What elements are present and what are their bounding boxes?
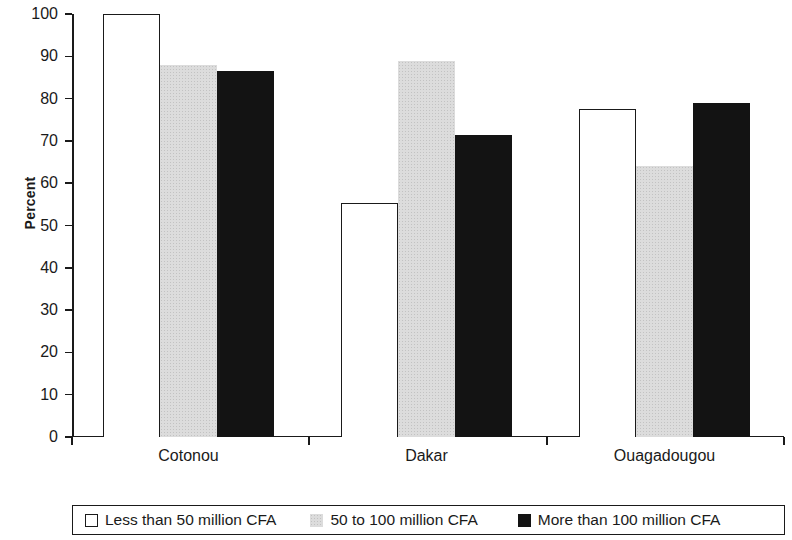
y-tick: 50 bbox=[65, 225, 72, 227]
x-axis-category-label: Dakar bbox=[327, 447, 527, 465]
y-tick-label: 10 bbox=[40, 387, 58, 403]
legend-label: 50 to 100 million CFA bbox=[330, 511, 477, 529]
bar bbox=[103, 14, 160, 437]
y-tick: 20 bbox=[65, 352, 72, 354]
y-tick-label: 70 bbox=[40, 133, 58, 149]
bar bbox=[579, 109, 636, 437]
legend-swatch-gray-square-icon bbox=[310, 514, 323, 527]
y-tick-label: 80 bbox=[40, 91, 58, 107]
chart-legend: Less than 50 million CFA 50 to 100 milli… bbox=[72, 505, 785, 535]
legend-item-less-than-50: Less than 50 million CFA bbox=[85, 511, 276, 529]
bar bbox=[398, 61, 455, 437]
y-tick-label: 40 bbox=[40, 260, 58, 276]
bar bbox=[693, 103, 750, 437]
legend-label: More than 100 million CFA bbox=[538, 511, 721, 529]
y-tick-label: 50 bbox=[40, 218, 58, 234]
y-tick: 40 bbox=[65, 267, 72, 269]
y-tick-label: 30 bbox=[40, 302, 58, 318]
plot-area: 0102030405060708090100 bbox=[72, 14, 784, 437]
x-axis-category-label: Ouagadougou bbox=[565, 447, 765, 465]
legend-item-more-than-100: More than 100 million CFA bbox=[518, 511, 721, 529]
bar bbox=[636, 166, 693, 437]
y-axis-title: Percent bbox=[22, 153, 38, 253]
y-tick-label: 20 bbox=[40, 344, 58, 360]
x-tick bbox=[546, 437, 548, 445]
y-tick: 60 bbox=[65, 182, 72, 184]
bar bbox=[341, 203, 398, 437]
legend-swatch-white-square-icon bbox=[85, 514, 98, 527]
x-tick bbox=[71, 437, 73, 445]
x-tick bbox=[308, 437, 310, 445]
x-tick bbox=[783, 437, 785, 445]
y-tick-label: 0 bbox=[49, 429, 58, 445]
bar bbox=[217, 71, 274, 437]
y-tick-label: 60 bbox=[40, 175, 58, 191]
y-tick: 80 bbox=[65, 98, 72, 100]
bar-chart-figure: Percent 0102030405060708090100 CotonouDa… bbox=[0, 0, 792, 540]
y-tick-label: 100 bbox=[31, 6, 58, 22]
y-tick: 30 bbox=[65, 309, 72, 311]
y-tick: 70 bbox=[65, 140, 72, 142]
y-tick: 10 bbox=[65, 394, 72, 396]
legend-swatch-black-square-icon bbox=[518, 514, 531, 527]
y-axis-line bbox=[72, 14, 74, 437]
bar bbox=[455, 135, 512, 437]
y-tick: 100 bbox=[65, 13, 72, 15]
bar bbox=[160, 65, 217, 437]
y-tick: 90 bbox=[65, 56, 72, 58]
legend-label: Less than 50 million CFA bbox=[105, 511, 276, 529]
y-tick-label: 90 bbox=[40, 48, 58, 64]
x-axis-category-label: Cotonou bbox=[89, 447, 289, 465]
legend-item-50-to-100: 50 to 100 million CFA bbox=[310, 511, 477, 529]
